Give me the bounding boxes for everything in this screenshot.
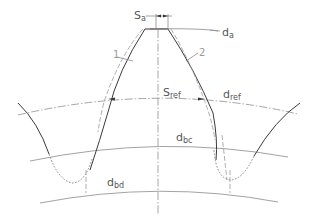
right-flank-inner-dash [222, 135, 227, 180]
base-circle-dbc [30, 146, 288, 161]
right-tooth-flank [254, 103, 300, 156]
label-profile-2: 2 [199, 47, 205, 58]
label-sref: Sref [163, 86, 181, 100]
gear-tooth-diagram: Sa da 1 2 Sref dref dbc dbd [0, 0, 314, 215]
label-profile-1: 1 [113, 49, 119, 60]
label-sa: Sa [134, 9, 146, 23]
root-circle-dbd [40, 191, 278, 203]
profile-1-dashed [98, 29, 143, 132]
label-dbd: dbd [107, 176, 124, 190]
profile-1-leader [117, 57, 133, 61]
profile-2-dashed [171, 29, 215, 140]
sa-arrow-right [163, 15, 168, 18]
label-da: da [222, 26, 234, 40]
profile-2-leader [186, 53, 198, 61]
right-root-fillet [214, 150, 254, 180]
label-dref: dref [223, 88, 241, 102]
da-leader [210, 30, 220, 31]
sa-arrow-left [156, 15, 161, 18]
label-dbc: dbc [176, 131, 192, 145]
left-tooth-flank [18, 103, 49, 154]
left-root-fillet [49, 154, 92, 183]
